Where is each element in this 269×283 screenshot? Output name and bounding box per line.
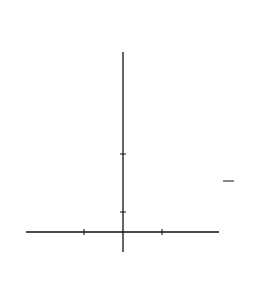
chart	[0, 0, 269, 283]
